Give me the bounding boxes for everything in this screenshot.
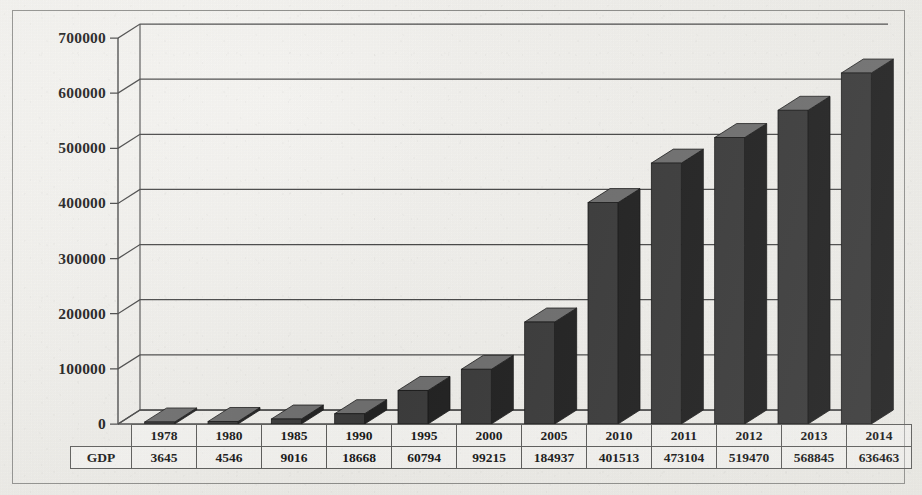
table-value-cell: 401513 xyxy=(587,447,652,469)
bar-1985 xyxy=(271,405,323,424)
table-value-cell: 99215 xyxy=(457,447,522,469)
bar-2010 xyxy=(588,189,640,424)
table-row-header-gdp: GDP xyxy=(71,447,132,469)
table-value-cell: 9016 xyxy=(262,447,327,469)
table-value-cell: 18668 xyxy=(327,447,392,469)
table-row-years: 1978198019851990199520002005201020112012… xyxy=(71,425,912,447)
table-value-cell: 473104 xyxy=(652,447,717,469)
bar-1990 xyxy=(335,400,387,424)
table-row-values: GDP 364545469016186686079499215184937401… xyxy=(71,447,912,469)
table-value-cell: 184937 xyxy=(522,447,587,469)
bar-2000 xyxy=(461,355,513,424)
table-year-cell: 1985 xyxy=(262,425,327,447)
bar-2005 xyxy=(525,308,577,424)
table-year-cell: 2010 xyxy=(587,425,652,447)
bar-2011 xyxy=(651,149,703,424)
table-corner-cell xyxy=(71,425,132,447)
scanned-chart-page: 0100000200000300000400000500000600000700… xyxy=(0,0,922,495)
table-year-cell: 1990 xyxy=(327,425,392,447)
table-year-cell: 1995 xyxy=(392,425,457,447)
table-value-cell: 636463 xyxy=(847,447,912,469)
bar-2014 xyxy=(841,59,893,424)
chart-bars xyxy=(145,59,894,424)
table-value-cell: 4546 xyxy=(197,447,262,469)
y-tick-label-400000: 400000 xyxy=(14,194,106,212)
y-tick-label-700000: 700000 xyxy=(14,29,106,47)
y-tick-label-600000: 600000 xyxy=(14,84,106,102)
table-year-cell: 2011 xyxy=(652,425,717,447)
gdp-bar-chart xyxy=(0,0,922,495)
y-tick-label-500000: 500000 xyxy=(14,139,106,157)
table-year-cell: 2013 xyxy=(782,425,847,447)
bar-2013 xyxy=(778,96,830,424)
bar-1995 xyxy=(398,376,450,424)
chart-axes xyxy=(118,24,140,424)
y-tick-label-200000: 200000 xyxy=(14,305,106,323)
table-year-cell: 1978 xyxy=(132,425,197,447)
gdp-data-table: 1978198019851990199520002005201020112012… xyxy=(70,424,912,469)
y-tick-label-100000: 100000 xyxy=(14,360,106,378)
bar-2012 xyxy=(715,124,767,424)
table-year-cell: 2000 xyxy=(457,425,522,447)
table-value-cell: 60794 xyxy=(392,447,457,469)
table-value-cell: 568845 xyxy=(782,447,847,469)
table-year-cell: 1980 xyxy=(197,425,262,447)
table-year-cell: 2014 xyxy=(847,425,912,447)
table-year-cell: 2012 xyxy=(717,425,782,447)
table-value-cell: 519470 xyxy=(717,447,782,469)
y-tick-label-300000: 300000 xyxy=(14,250,106,268)
table-year-cell: 2005 xyxy=(522,425,587,447)
table-value-cell: 3645 xyxy=(132,447,197,469)
